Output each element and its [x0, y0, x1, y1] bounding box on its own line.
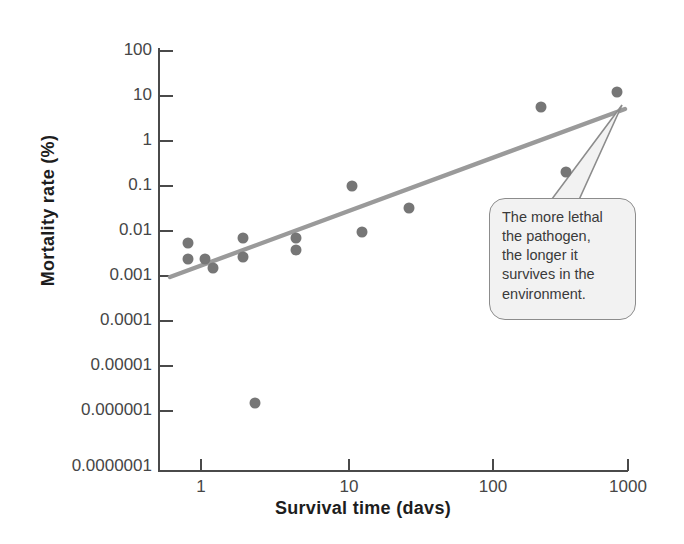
- data-point: [291, 233, 302, 244]
- data-point: [250, 398, 261, 409]
- annotation-line: the pathogen,: [502, 227, 625, 246]
- annotation-line: survives in the: [502, 265, 625, 284]
- annotation-callout: The more lethal the pathogen, the longer…: [489, 198, 636, 320]
- chart-figure: Mortality rate (%) Survival time (davs) …: [0, 0, 684, 544]
- data-point: [238, 252, 249, 263]
- data-point: [347, 181, 358, 192]
- data-point: [357, 227, 368, 238]
- data-point: [612, 87, 623, 98]
- data-point: [238, 233, 249, 244]
- data-point: [208, 263, 219, 274]
- annotation-line: The more lethal: [502, 208, 625, 227]
- data-point: [183, 254, 194, 265]
- data-point: [183, 238, 194, 249]
- annotation-line: environment.: [502, 285, 625, 304]
- annotation-line: the longer it: [502, 246, 625, 265]
- data-point: [404, 203, 415, 214]
- data-point: [291, 245, 302, 256]
- data-point: [561, 167, 572, 178]
- data-point: [536, 102, 547, 113]
